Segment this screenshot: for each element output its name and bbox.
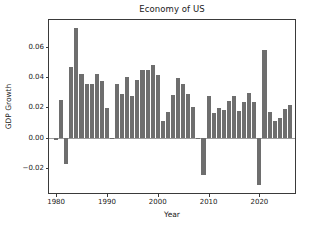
bar (146, 70, 150, 138)
bar (85, 84, 89, 137)
bar (283, 109, 287, 138)
bar (161, 121, 165, 137)
y-axis-tick-mark (46, 138, 50, 139)
y-axis-tick-mark (46, 168, 50, 169)
bar (288, 105, 292, 137)
y-axis-label: GDP Growth (3, 19, 15, 194)
bar (232, 96, 236, 137)
y-axis-tick-mark (46, 77, 50, 78)
bar (242, 102, 246, 138)
bar (217, 108, 221, 137)
x-axis-tick-label: 1990 (98, 198, 116, 206)
bar (100, 81, 104, 137)
x-axis-tick-mark (259, 193, 260, 197)
x-axis-tick-label: 2020 (250, 198, 268, 206)
bar (59, 100, 63, 138)
bar (74, 28, 78, 137)
y-axis-tick-label: 0.06 (28, 43, 44, 51)
bar (201, 138, 205, 175)
bar (79, 74, 83, 138)
bar (252, 102, 256, 138)
bar (140, 70, 144, 138)
bar (186, 94, 190, 137)
y-axis-tick-mark (46, 47, 50, 48)
y-axis-tick-label: −0.02 (23, 164, 44, 172)
x-axis-tick-label: 1980 (47, 198, 65, 206)
x-axis-tick-mark (107, 193, 108, 197)
plot-axes: −0.020.000.020.040.061980199020002010202… (48, 19, 296, 194)
bar (278, 118, 282, 137)
bar (95, 74, 99, 138)
y-axis-tick-mark (46, 107, 50, 108)
bar (227, 101, 231, 137)
bar (171, 95, 175, 138)
bar (212, 113, 216, 138)
x-axis-tick-mark (209, 193, 210, 197)
bar (207, 96, 211, 137)
x-axis-tick-mark (158, 193, 159, 197)
x-axis-label: Year (48, 210, 296, 219)
x-axis-tick-label: 2010 (200, 198, 218, 206)
x-axis-tick-label: 2000 (149, 198, 167, 206)
bar (90, 84, 94, 137)
bar (176, 78, 180, 137)
bar (191, 107, 195, 138)
bar (130, 96, 134, 137)
y-axis-tick-label: 0.02 (28, 103, 44, 111)
plot-area (49, 20, 295, 193)
bar (115, 84, 119, 137)
y-axis-tick-label: 0.04 (28, 73, 44, 81)
bar (196, 138, 200, 140)
bar (151, 65, 155, 138)
bar (257, 138, 261, 185)
bar (156, 75, 160, 137)
chart-figure: Economy of US GDP Growth −0.020.000.020.… (0, 0, 316, 236)
y-axis-label-text: GDP Growth (5, 84, 14, 130)
bar (273, 121, 277, 138)
bar (237, 111, 241, 137)
bar (64, 138, 68, 164)
bar (110, 138, 114, 139)
bar (268, 112, 272, 137)
bar (166, 112, 170, 138)
bar (262, 50, 266, 137)
bar (222, 110, 226, 138)
bar (120, 94, 124, 138)
y-axis-tick-label: 0.00 (28, 134, 44, 142)
bar (54, 138, 58, 140)
chart-title: Economy of US (48, 4, 296, 14)
bar (247, 93, 251, 138)
bar (181, 84, 185, 138)
bar (135, 80, 139, 137)
bar (105, 108, 109, 137)
bar (125, 77, 129, 138)
x-axis-tick-mark (56, 193, 57, 197)
bar (69, 67, 73, 137)
